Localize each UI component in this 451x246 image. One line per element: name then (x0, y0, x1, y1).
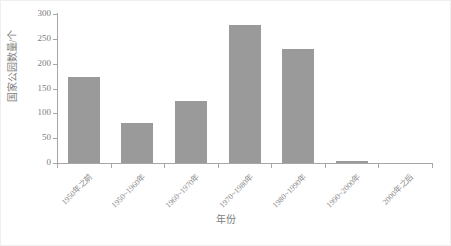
y-axis-tick-label: 200 (38, 59, 52, 68)
bar (175, 101, 207, 163)
y-axis-title: 国家公园数量/个 (7, 6, 19, 126)
y-axis-tick-label: 100 (38, 108, 52, 117)
y-axis-tick-label: 250 (38, 34, 52, 43)
bar (68, 77, 100, 163)
x-axis-line (57, 163, 433, 164)
y-axis-tick-label: 50 (42, 133, 51, 142)
y-axis-tick-label: 150 (38, 84, 52, 93)
x-axis-tick-mark (218, 164, 219, 168)
x-axis-tick-mark (164, 164, 165, 168)
plot-area (57, 14, 432, 163)
x-axis-tick-mark (378, 164, 379, 168)
bar (336, 161, 368, 163)
bar (229, 25, 261, 163)
x-axis-tick-mark (111, 164, 112, 168)
x-axis-tick-mark (432, 164, 433, 168)
bar-chart-figure: 050100150200250300 1950年之前1950~1960年1960… (0, 0, 451, 246)
x-axis-tick-mark (57, 164, 58, 168)
y-axis-tick-label: 300 (38, 9, 52, 18)
x-axis-tick-mark (325, 164, 326, 168)
bar (121, 123, 153, 163)
x-axis-tick-mark (271, 164, 272, 168)
x-axis-title: 年份 (0, 214, 451, 226)
y-axis-tick-label: 0 (47, 158, 52, 167)
bar (282, 49, 314, 163)
